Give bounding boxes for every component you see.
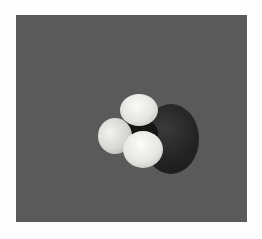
image-panel	[16, 15, 247, 222]
hydrogen-atom-top	[120, 94, 158, 126]
hydrogen-atom-front	[123, 131, 163, 168]
